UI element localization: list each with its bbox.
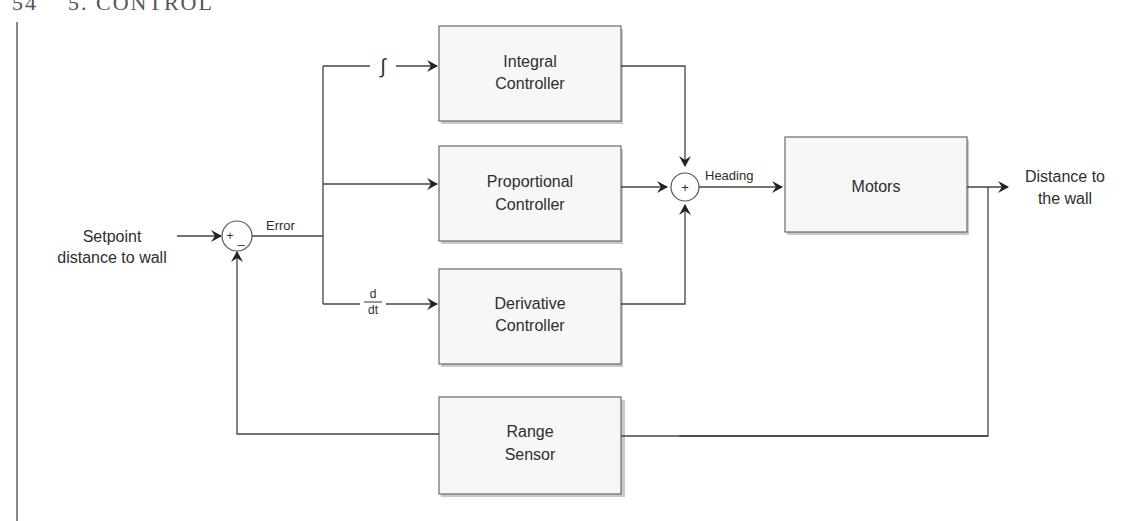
derivative-controller-block: Derivative Controller xyxy=(439,269,623,367)
summing-junction-2: + xyxy=(671,173,699,201)
svg-text:dt: dt xyxy=(368,303,379,317)
error-label: Error xyxy=(266,218,296,233)
summing-junction-1: + _ xyxy=(222,221,252,251)
svg-text:Integral: Integral xyxy=(503,53,556,70)
svg-text:Controller: Controller xyxy=(495,317,565,334)
svg-text:Proportional: Proportional xyxy=(487,173,573,190)
output-label: Distance to the wall xyxy=(1025,168,1105,207)
derivative-operator: d dt xyxy=(364,287,382,317)
svg-text:d: d xyxy=(370,287,377,301)
feedback-wire-left xyxy=(237,252,439,434)
heading-label: Heading xyxy=(705,168,753,183)
svg-text:Motors: Motors xyxy=(852,178,901,195)
svg-text:the wall: the wall xyxy=(1038,190,1092,207)
pid-block-diagram: Setpoint distance to wall + _ Error ∫ d … xyxy=(0,0,1144,521)
svg-text:Controller: Controller xyxy=(495,196,565,213)
svg-text:Range: Range xyxy=(506,423,553,440)
integral-output-wire xyxy=(621,66,685,166)
svg-text:Controller: Controller xyxy=(495,75,565,92)
motors-block: Motors xyxy=(785,137,969,235)
svg-text:Setpoint: Setpoint xyxy=(83,228,142,245)
svg-text:Distance to: Distance to xyxy=(1025,168,1105,185)
svg-text:distance to wall: distance to wall xyxy=(57,249,166,266)
integral-controller-block: Integral Controller xyxy=(439,26,623,124)
setpoint-label: Setpoint distance to wall xyxy=(57,228,166,266)
integral-symbol: ∫ xyxy=(379,55,387,78)
svg-text:+: + xyxy=(681,180,689,195)
svg-text:Derivative: Derivative xyxy=(494,295,565,312)
svg-text:Sensor: Sensor xyxy=(505,446,556,463)
plus-sign: + xyxy=(226,229,233,243)
minus-sign: _ xyxy=(236,231,245,246)
proportional-controller-block: Proportional Controller xyxy=(439,146,623,244)
range-sensor: Range Sensor xyxy=(439,397,625,497)
derivative-output-wire xyxy=(621,205,685,304)
